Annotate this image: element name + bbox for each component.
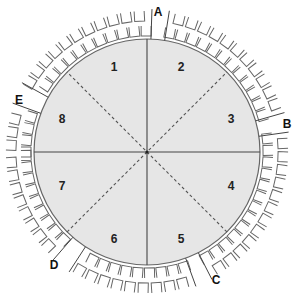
- seat: [177, 277, 189, 289]
- seat: [70, 29, 84, 43]
- seat: [257, 179, 269, 191]
- seat: [268, 98, 281, 111]
- seat: [141, 26, 151, 36]
- seat: [223, 253, 237, 267]
- seat: [26, 184, 39, 197]
- seat: [21, 150, 31, 160]
- seat: [220, 35, 234, 49]
- seat: [212, 260, 226, 274]
- seat: [25, 218, 39, 232]
- seat: [209, 28, 223, 42]
- seat: [33, 229, 47, 243]
- entrance-line: [151, 9, 152, 39]
- entrance-label-C: C: [212, 273, 221, 287]
- seat: [59, 36, 73, 50]
- seat: [9, 113, 21, 125]
- seat: [253, 190, 266, 203]
- seat: [41, 239, 55, 253]
- seat: [273, 177, 285, 189]
- segment-label-6: 6: [111, 232, 118, 246]
- seat: [98, 275, 111, 288]
- seat: [30, 195, 43, 208]
- seat: [10, 182, 22, 194]
- entrance-line: [198, 253, 212, 280]
- seat: [82, 23, 95, 36]
- seat: [129, 26, 140, 37]
- seat: [186, 33, 199, 46]
- seat: [85, 270, 98, 283]
- seat: [156, 267, 167, 278]
- seat: [277, 138, 288, 149]
- seat: [173, 14, 185, 26]
- seat: [138, 283, 148, 293]
- seat: [19, 207, 32, 220]
- entrance-line: [165, 11, 170, 41]
- entrance-label-E: E: [15, 93, 23, 107]
- seat: [164, 280, 176, 292]
- seat: [108, 262, 120, 274]
- seat: [94, 18, 107, 31]
- seat: [233, 244, 247, 258]
- seat: [21, 135, 32, 146]
- seat: [117, 28, 129, 40]
- seat: [23, 173, 35, 185]
- seat: [263, 145, 273, 155]
- seat: [22, 123, 34, 135]
- entrance-line: [53, 237, 73, 260]
- seat: [132, 267, 143, 278]
- seat: [144, 268, 154, 278]
- seat: [256, 74, 270, 88]
- seat: [120, 12, 131, 23]
- seat: [134, 11, 145, 22]
- seat: [276, 164, 287, 175]
- seat: [252, 98, 265, 111]
- seat: [248, 63, 262, 77]
- seat: [167, 264, 179, 276]
- entrance-label-D: D: [50, 258, 59, 272]
- seat: [107, 14, 119, 26]
- entrance-label-B: B: [283, 117, 292, 131]
- seat: [230, 43, 244, 57]
- segment-label-7: 7: [59, 179, 66, 193]
- segment-label-4: 4: [228, 179, 235, 193]
- seat: [94, 34, 107, 47]
- center-point: [145, 150, 148, 153]
- seat: [242, 235, 256, 249]
- segment-label-1: 1: [111, 60, 118, 74]
- seat: [262, 157, 273, 168]
- seat: [6, 140, 16, 150]
- seat: [251, 224, 265, 238]
- segment-label-2: 2: [178, 60, 185, 74]
- segment-label-8: 8: [59, 112, 66, 126]
- seat: [6, 157, 17, 168]
- seat: [264, 202, 277, 215]
- seat: [97, 258, 110, 271]
- seat: [111, 279, 123, 291]
- segment-label-5: 5: [178, 232, 185, 246]
- seat: [120, 265, 132, 277]
- seat: [240, 53, 254, 67]
- seat: [21, 147, 31, 157]
- seat: [39, 54, 53, 68]
- seat: [263, 86, 276, 99]
- seat: [151, 282, 162, 293]
- seating-diagram: 12345678 ABCDE: [0, 0, 299, 299]
- seat: [25, 111, 37, 123]
- segment-label-3: 3: [228, 112, 235, 126]
- seat: [197, 22, 210, 35]
- entrance-line: [256, 113, 285, 121]
- seat: [14, 195, 27, 208]
- seat: [7, 170, 19, 182]
- seat: [269, 189, 282, 202]
- seat: [258, 213, 272, 227]
- entrance-label-A: A: [154, 5, 163, 19]
- seat: [73, 263, 87, 277]
- seat: [185, 17, 198, 30]
- seat: [175, 30, 187, 42]
- seat: [48, 45, 62, 59]
- seat: [7, 126, 18, 137]
- seat: [105, 30, 118, 43]
- seat: [278, 152, 288, 162]
- seat: [31, 64, 45, 78]
- seat: [124, 281, 135, 292]
